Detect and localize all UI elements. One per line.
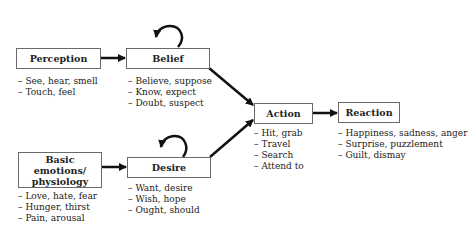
arrow-desire-to-action (210, 120, 253, 157)
node-action: Action (254, 103, 313, 124)
node-perception: Perception (16, 48, 101, 69)
node-reaction: Reaction (338, 102, 400, 123)
desire-self-loop-icon (161, 136, 186, 157)
list-item: See, hear, smell (18, 76, 98, 87)
list-item: Guilt, dismay (338, 150, 467, 161)
list-item: Happiness, sadness, anger (338, 128, 467, 139)
desire-examples: Want, desire Wish, hope Ought, should (128, 183, 200, 216)
list-item: Surprise, puzzlement (338, 139, 467, 150)
node-belief-label: Belief (152, 53, 183, 64)
list-item: Want, desire (128, 183, 200, 194)
arrow-belief-to-action (209, 68, 253, 105)
node-desire-label: Desire (152, 162, 186, 173)
list-item: Wish, hope (128, 194, 200, 205)
list-item: Know, expect (128, 87, 212, 98)
node-reaction-label: Reaction (345, 107, 392, 118)
reaction-examples: Happiness, sadness, anger Surprise, puzz… (338, 128, 467, 161)
node-belief: Belief (126, 48, 210, 69)
list-item: Attend to (254, 161, 304, 172)
list-item: Doubt, suspect (128, 98, 212, 109)
belief-self-loop-icon (156, 26, 182, 47)
node-desire: Desire (127, 157, 211, 178)
list-item: Pain, arousal (18, 213, 97, 224)
node-basic-emotions-label: Basic emotions/ physiology (23, 154, 97, 187)
list-item: Touch, feel (18, 87, 98, 98)
list-item: Ought, should (128, 205, 200, 216)
perception-examples: See, hear, smell Touch, feel (18, 76, 98, 98)
list-item: Hunger, thirst (18, 202, 97, 213)
basic-emotions-examples: Love, hate, fear Hunger, thirst Pain, ar… (18, 191, 97, 224)
belief-examples: Believe, suppose Know, expect Doubt, sus… (128, 76, 212, 109)
node-action-label: Action (266, 108, 300, 119)
list-item: Travel (254, 139, 304, 150)
list-item: Hit, grab (254, 128, 304, 139)
list-item: Search (254, 150, 304, 161)
node-basic-emotions: Basic emotions/ physiology (18, 152, 102, 188)
list-item: Believe, suppose (128, 76, 212, 87)
list-item: Love, hate, fear (18, 191, 97, 202)
node-perception-label: Perception (30, 53, 88, 64)
action-examples: Hit, grab Travel Search Attend to (254, 128, 304, 172)
